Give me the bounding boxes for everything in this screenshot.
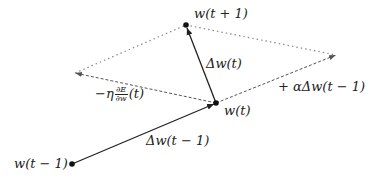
gradient-prefix: −η [95,86,114,101]
label-delta-curr: Δw(t) [206,57,242,70]
label-w-next: w(t + 1) [194,7,248,20]
label-w-curr: w(t) [224,104,251,117]
label-gradient: −η∂E∂w(t) [95,86,144,103]
gradient-denominator: ∂w [115,95,128,103]
label-delta-prev: Δw(t − 1) [146,134,209,147]
dotted-edge-right [186,25,336,55]
point-w-curr [213,100,219,106]
gradient-fraction: ∂E∂w [115,86,128,103]
point-w-next [183,22,189,28]
point-w-prev [69,161,75,167]
dotted-edge-left [75,25,186,73]
gradient-suffix: (t) [129,86,144,101]
label-momentum: + αΔw(t − 1) [278,80,365,93]
momentum-diagram: w(t + 1) w(t) w(t − 1) Δw(t) Δw(t − 1) +… [0,0,376,180]
label-w-prev: w(t − 1) [14,157,68,170]
